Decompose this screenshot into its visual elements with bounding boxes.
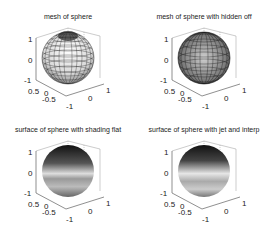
svg-text:0: 0: [224, 207, 229, 216]
subplot-surface-flat: surface of sphere with shading flat 1 0 …: [0, 113, 136, 226]
subplot-mesh: mesh of sphere 1 0 -1 0.5 0 -0.5 -1: [0, 0, 136, 113]
svg-text:1: 1: [28, 35, 33, 44]
svg-text:1: 1: [28, 148, 33, 157]
svg-text:1: 1: [242, 86, 247, 95]
svg-text:-0.5: -0.5: [178, 95, 192, 104]
svg-text:0.5: 0.5: [164, 200, 176, 209]
axes-3d: 1 0 -1 0.5 0 -0.5 -1 0 1: [0, 0, 136, 113]
svg-text:-1: -1: [160, 189, 168, 198]
svg-text:0: 0: [88, 207, 93, 216]
svg-text:-0.5: -0.5: [178, 208, 192, 217]
axes-3d: 1 0 -1 0.5 0 -0.5 -1 0 1: [0, 113, 136, 226]
svg-text:-1: -1: [66, 215, 74, 224]
svg-text:-1: -1: [202, 215, 210, 224]
axes-3d: 1 0 -1 0.5 0 -0.5 -1 0 1: [136, 0, 272, 113]
svg-text:-1: -1: [66, 102, 74, 111]
svg-text:0: 0: [88, 94, 93, 103]
axes-3d: 1 0 -1 0.5 0 -0.5 -1 0 1: [136, 113, 272, 226]
svg-text:-1: -1: [202, 102, 210, 111]
svg-text:0.5: 0.5: [164, 87, 176, 96]
svg-text:0: 0: [28, 169, 33, 178]
svg-text:1: 1: [106, 199, 111, 208]
subplot-mesh-hidden-off: mesh of sphere with hidden off 1 0 -1 0.…: [136, 0, 272, 113]
svg-text:-1: -1: [24, 189, 32, 198]
svg-text:0: 0: [164, 169, 169, 178]
svg-text:1: 1: [106, 86, 111, 95]
svg-text:-0.5: -0.5: [42, 95, 56, 104]
svg-text:0: 0: [28, 56, 33, 65]
subplot-surface-interp: surface of sphere with jet and interp 1 …: [136, 113, 272, 226]
svg-text:0: 0: [224, 94, 229, 103]
svg-text:-1: -1: [24, 76, 32, 85]
svg-text:0.5: 0.5: [28, 200, 40, 209]
svg-text:1: 1: [164, 148, 169, 157]
svg-text:0: 0: [164, 56, 169, 65]
svg-text:-0.5: -0.5: [42, 208, 56, 217]
svg-text:1: 1: [242, 199, 247, 208]
svg-text:1: 1: [164, 35, 169, 44]
svg-text:0.5: 0.5: [28, 87, 40, 96]
svg-text:-1: -1: [160, 76, 168, 85]
